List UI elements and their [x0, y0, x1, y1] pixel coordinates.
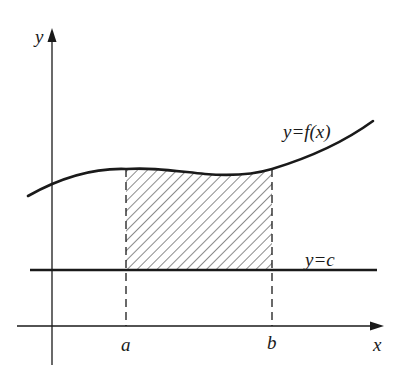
curve-f-label: y=f(x): [283, 122, 331, 141]
x-axis-label: x: [373, 335, 381, 354]
curve-c-label: y=c: [305, 250, 335, 269]
bound-a-label: a: [121, 335, 131, 354]
y-axis-label: y: [35, 27, 43, 46]
x-axis-arrow-icon: [370, 322, 384, 331]
bound-b-label: b: [267, 333, 277, 352]
area-diagram: [0, 0, 405, 389]
y-axis-arrow-icon: [48, 28, 57, 42]
shaded-region: [126, 168, 272, 270]
